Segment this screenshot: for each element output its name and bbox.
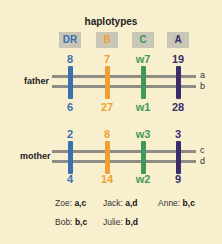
father-c-bottom: w1 [128, 101, 158, 113]
mother-c-bottom: w2 [128, 173, 158, 185]
child-julie: Julie: b,d [103, 217, 138, 227]
father-dr-top: 8 [55, 53, 85, 65]
strand-label-b: b [200, 81, 205, 91]
mother-a-bottom: 9 [163, 173, 193, 185]
mother-a-top: 3 [163, 128, 193, 140]
locus-header-dr: DR [59, 32, 81, 48]
father-a-bar [176, 66, 181, 99]
father-b-bar [105, 66, 110, 99]
child-bob: Bob: b,c [55, 217, 87, 227]
locus-header-b: B [96, 32, 118, 48]
strand-c [52, 150, 196, 153]
locus-header-c: C [132, 32, 154, 48]
mother-b-top: 8 [92, 128, 122, 140]
strand-label-d: d [200, 156, 205, 166]
diagram-title: haplotypes [0, 16, 222, 27]
father-dr-bottom: 6 [55, 101, 85, 113]
mother-b-bar [105, 141, 110, 174]
strand-b [52, 85, 196, 88]
father-b-bottom: 27 [92, 101, 122, 113]
father-a-bottom: 28 [163, 101, 193, 113]
father-dr-bar [68, 66, 73, 99]
strand-label-a: a [200, 70, 205, 80]
locus-header-a: A [167, 32, 189, 48]
strand-a [52, 75, 196, 78]
father-b-top: 7 [92, 53, 122, 65]
mother-dr-top: 2 [55, 128, 85, 140]
child-jack: Jack: a,d [103, 198, 138, 208]
mother-c-top: w3 [128, 128, 158, 140]
father-label: father [24, 76, 49, 86]
mother-b-bottom: 14 [92, 173, 122, 185]
child-zoe: Zoe: a,c [55, 198, 86, 208]
father-c-bar [141, 66, 146, 99]
strand-d [52, 160, 196, 163]
mother-label: mother [20, 151, 51, 161]
father-a-top: 19 [163, 53, 193, 65]
mother-dr-bottom: 4 [55, 173, 85, 185]
mother-c-bar [141, 141, 146, 174]
mother-a-bar [176, 141, 181, 174]
child-anne: Anne: b,c [158, 198, 195, 208]
father-c-top: w7 [128, 53, 158, 65]
strand-label-c: c [200, 145, 205, 155]
mother-dr-bar [68, 141, 73, 174]
